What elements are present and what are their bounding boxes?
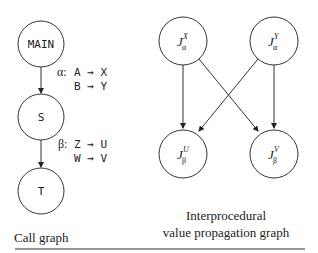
node-j-beta-v: J V β [250,130,298,178]
node-j-alpha-x: J X α [159,17,207,65]
svg-text:β: β [273,156,277,165]
svg-text:β: β [182,156,186,165]
diagram-canvas: MAIN S T α: A → X B → Y β: Z → U W → V C… [0,0,318,253]
node-s: S [18,94,64,140]
call-graph-caption: Call graph [14,230,69,245]
alpha-name: α: [57,65,67,79]
alpha-mapping-1: A → X [74,66,107,79]
node-t-label: T [38,185,45,198]
beta-mapping-2: W → V [74,152,107,165]
edge-beta-label: β: Z → U W → V [58,137,107,165]
node-s-label: S [38,111,45,124]
alpha-mapping-2: B → Y [74,80,107,93]
value-propagation-graph: J X α J Y α J U β J V β Interprocedural … [159,17,298,240]
node-j-beta-u: J U β [159,130,207,178]
node-main: MAIN [18,21,64,67]
node-j-alpha-y: J Y α [250,17,298,65]
edge-alpha-label: α: A → X B → Y [57,65,107,93]
call-graph: MAIN S T α: A → X B → Y β: Z → U W → V C… [14,21,107,245]
beta-name: β: [58,137,67,151]
beta-mapping-1: Z → U [74,138,107,151]
node-main-label: MAIN [28,38,55,51]
value-graph-caption-line2: value propagation graph [163,225,290,240]
value-graph-caption-line1: Interprocedural [186,208,267,223]
node-t: T [18,168,64,214]
